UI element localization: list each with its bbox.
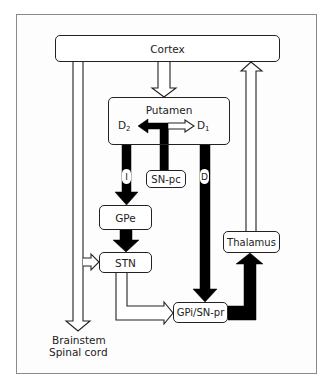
node-sn-pc: SN-pc (146, 170, 186, 188)
cortex-to-brainstem-arrow (66, 62, 90, 331)
node-cortex: Cortex (55, 35, 280, 62)
cortex-to-putamen-arrow (152, 62, 176, 97)
node-stn: STN (99, 252, 152, 273)
indirect-pathway-badge: I (122, 169, 131, 184)
snpc-label: SN-pc (151, 174, 180, 185)
cortex-to-stn-arrow (83, 254, 99, 270)
output-label-spinal-cord: Spinal cord (49, 346, 108, 358)
output-label-brainstem: Brainstem (52, 334, 106, 346)
cortex-label: Cortex (150, 43, 185, 55)
thalamus-to-cortex-arrow (241, 62, 262, 231)
direct-pathway-badge: D (200, 169, 209, 184)
gpe-to-stn-arrow (113, 230, 139, 252)
gpe-label: GPe (115, 212, 136, 224)
thalamus-label: Thalamus (227, 237, 276, 248)
gpi-label: GPi/SN-pr (177, 307, 225, 318)
node-thalamus: Thalamus (223, 231, 280, 253)
node-gpe: GPe (99, 205, 152, 230)
stn-to-gpi-arrow (116, 273, 173, 324)
putamen-label: Putamen (146, 104, 193, 116)
gpi-to-thalamus-arrow (228, 253, 263, 320)
stn-label: STN (115, 257, 136, 269)
node-gpi-snpr: GPi/SN-pr (173, 302, 228, 323)
receptor-d2: D2 (118, 119, 131, 133)
receptor-d1: D1 (197, 119, 210, 133)
